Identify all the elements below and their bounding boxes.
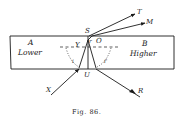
point-S: S: [85, 27, 90, 35]
point-O: O: [96, 37, 102, 45]
region-A-label: Lower: [17, 48, 42, 57]
region-B-label: Higher: [129, 49, 157, 58]
internal-ray-right: [88, 40, 96, 68]
point-X: X: [45, 86, 52, 94]
region-B-letter: B: [141, 39, 148, 48]
internal-ray-left: [79, 40, 88, 68]
point-M: M: [145, 18, 154, 26]
angle-label-top: r: [89, 38, 92, 44]
point-Y: Y: [75, 41, 81, 49]
point-U: U: [84, 71, 91, 79]
ray-to-T: [89, 14, 135, 36]
region-A-letter: A: [27, 38, 34, 47]
point-T: T: [137, 8, 143, 16]
incident-ray-X: [51, 69, 79, 95]
angle-label-left: i: [72, 58, 74, 64]
angle-label-right: i': [104, 58, 107, 64]
ray-to-M: [92, 23, 145, 36]
ray-R-arrowhead: [129, 89, 136, 94]
point-R: R: [137, 87, 144, 95]
slab-left-edge: [10, 36, 11, 69]
diagram-canvas: A Lower B Higher S O Y U T M X R i i' r …: [0, 0, 181, 118]
refraction-diagram: A Lower B Higher S O Y U T M X R i i' r …: [0, 0, 181, 118]
figure-caption: Fig. 86.: [72, 108, 101, 116]
